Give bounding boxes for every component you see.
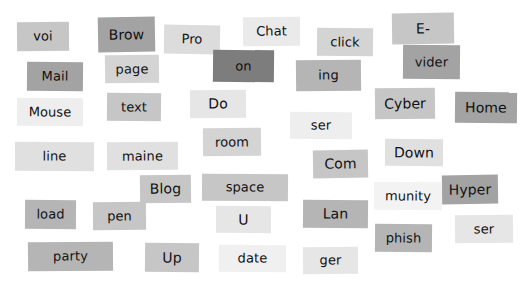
word-tile-label: click: [330, 35, 360, 48]
word-tile[interactable]: on: [213, 50, 274, 83]
word-tile-label: Mouse: [29, 105, 72, 118]
word-tile-label: Pro: [181, 32, 202, 45]
word-tile-label: Home: [465, 100, 507, 114]
word-tile-label: U: [238, 212, 248, 226]
word-tile[interactable]: Down: [385, 139, 443, 166]
word-tile[interactable]: ing: [296, 60, 361, 92]
word-tile-canvas: voiBrowProChatclickE-MailpageoningviderM…: [0, 0, 524, 284]
word-tile-label: page: [115, 62, 148, 75]
word-tile[interactable]: E-: [392, 13, 454, 45]
word-tile[interactable]: maine: [107, 142, 178, 170]
word-tile-label: on: [235, 59, 252, 72]
word-tile-label: party: [53, 249, 88, 262]
word-tile-label: Up: [162, 250, 181, 264]
word-tile-label: Do: [208, 96, 228, 110]
word-tile[interactable]: U: [216, 206, 271, 233]
word-tile-label: munity: [385, 189, 431, 202]
word-tile[interactable]: Chat: [243, 17, 300, 46]
word-tile[interactable]: ger: [303, 247, 358, 274]
word-tile[interactable]: load: [25, 200, 76, 229]
word-tile-label: Com: [324, 156, 356, 170]
word-tile-label: ser: [311, 118, 332, 131]
word-tile[interactable]: date: [219, 245, 286, 272]
word-tile-label: voi: [33, 29, 53, 42]
word-tile[interactable]: Com: [313, 150, 368, 179]
word-tile[interactable]: Mail: [27, 62, 83, 91]
word-tile[interactable]: room: [203, 128, 261, 157]
word-tile[interactable]: vider: [403, 45, 460, 79]
word-tile[interactable]: Home: [455, 92, 517, 124]
word-tile-label: ing: [318, 68, 339, 81]
word-tile[interactable]: Pro: [164, 25, 220, 55]
word-tile-label: Blog: [150, 181, 182, 195]
word-tile[interactable]: Cyber: [375, 88, 435, 120]
word-tile-label: Chat: [256, 24, 287, 37]
word-tile-label: date: [238, 251, 268, 264]
word-tile[interactable]: voi: [17, 22, 69, 52]
word-tile-label: Lan: [323, 206, 349, 220]
word-tile-label: Down: [394, 145, 434, 159]
word-tile-label: pen: [107, 209, 132, 222]
word-tile[interactable]: ser: [455, 215, 513, 244]
word-tile[interactable]: Blog: [140, 175, 191, 204]
word-tile[interactable]: Lan: [303, 200, 368, 229]
word-tile[interactable]: phish: [375, 224, 432, 252]
word-tile-label: Cyber: [384, 96, 426, 110]
word-tile[interactable]: click: [317, 28, 373, 57]
word-tile-label: maine: [122, 149, 163, 162]
word-tile[interactable]: page: [105, 55, 159, 84]
word-tile-label: room: [215, 135, 249, 148]
word-tile-label: Hyper: [449, 182, 492, 197]
word-tile[interactable]: Hyper: [442, 175, 498, 205]
word-tile-label: Mail: [42, 69, 69, 82]
word-tile[interactable]: text: [107, 93, 161, 121]
word-tile[interactable]: space: [202, 174, 288, 202]
word-tile-label: E-: [416, 21, 430, 35]
word-tile[interactable]: Mouse: [17, 98, 83, 126]
word-tile-label: ger: [319, 253, 341, 266]
word-tile-label: line: [43, 149, 67, 162]
word-tile[interactable]: Up: [145, 243, 199, 272]
word-tile-label: ser: [474, 222, 495, 235]
word-tile[interactable]: Do: [190, 90, 246, 118]
word-tile-label: phish: [386, 231, 422, 244]
word-tile-label: vider: [415, 55, 448, 68]
word-tile[interactable]: ser: [290, 112, 352, 139]
word-tile-label: space: [226, 180, 265, 193]
word-tile[interactable]: munity: [374, 182, 442, 210]
word-tile[interactable]: Brow: [98, 17, 156, 53]
word-tile-label: text: [121, 100, 147, 113]
word-tile[interactable]: pen: [93, 202, 146, 230]
word-tile[interactable]: line: [15, 142, 94, 171]
word-tile[interactable]: party: [28, 242, 113, 272]
word-tile-label: Brow: [109, 27, 145, 42]
word-tile-label: load: [36, 207, 64, 220]
